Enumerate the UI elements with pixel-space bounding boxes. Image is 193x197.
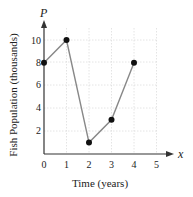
gridlines: [44, 28, 157, 154]
svg-text:4: 4: [132, 159, 137, 170]
axes: [41, 20, 174, 157]
data-point: [64, 37, 70, 43]
data-point: [86, 140, 92, 146]
y-axis-var: P: [39, 6, 48, 20]
data-point: [109, 117, 115, 123]
svg-text:2: 2: [87, 159, 92, 170]
svg-text:3: 3: [109, 159, 114, 170]
svg-text:0: 0: [42, 159, 47, 170]
svg-text:8: 8: [36, 57, 41, 68]
y-tick-labels: 2 4 6 8 10: [31, 35, 41, 136]
svg-text:5: 5: [154, 159, 159, 170]
svg-text:2: 2: [36, 125, 41, 136]
svg-text:10: 10: [31, 35, 41, 46]
svg-text:6: 6: [36, 79, 41, 90]
data-point: [41, 60, 47, 66]
y-axis-label: Fish Population (thousands): [7, 33, 20, 157]
data-point: [131, 60, 137, 66]
svg-text:1: 1: [64, 159, 69, 170]
fish-population-chart: x P 0 1 2 3 4 5 2 4 6 8 10 Time (years) …: [0, 0, 193, 197]
x-tick-labels: 0 1 2 3 4 5: [42, 159, 160, 170]
svg-text:4: 4: [36, 102, 41, 113]
x-axis-label: Time (years): [72, 177, 128, 190]
x-axis-var: x: [177, 147, 184, 161]
